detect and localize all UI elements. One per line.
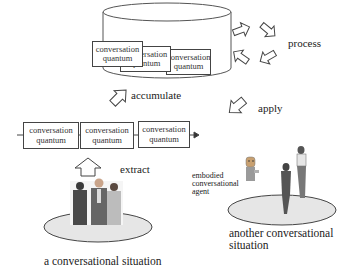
timeline-quantum-1: conversation quantum (23, 122, 79, 149)
people-photo (70, 179, 123, 226)
left-situation-caption: a conversational situation (44, 256, 162, 267)
agent-label-line3: agent (192, 188, 209, 196)
accumulate-label: accumulate (131, 90, 181, 101)
repository-quantum-1: conversation quantum (92, 41, 143, 67)
accumulate-arrow-icon (107, 84, 132, 109)
conversation-quanta-diagram: conversation quantum conversation quantu… (0, 0, 351, 273)
extract-arrow-icon (75, 158, 101, 176)
quantum-text: quantum (24, 136, 78, 146)
quantum-text: quantum (93, 54, 142, 64)
process-label: process (288, 38, 321, 49)
timeline-quantum-2: conversation quantum (80, 122, 134, 149)
right-platform (228, 195, 336, 225)
apply-label: apply (258, 103, 282, 114)
human-figure (297, 146, 306, 198)
apply-arrow-icon (224, 94, 249, 118)
process-cycle-icon (230, 19, 280, 67)
embodied-agent-figure (246, 157, 259, 181)
timeline-quantum-3: conversation quantum (138, 121, 190, 148)
right-situation-caption-line1: another conversational (229, 228, 333, 239)
extract-label: extract (120, 164, 150, 175)
quantum-text: quantum (139, 135, 189, 145)
quantum-text: quantum (81, 136, 133, 146)
right-situation-caption-line2: situation (229, 240, 269, 251)
repository-quantum-3: conversation quantum (166, 49, 211, 75)
quantum-text: quantum (167, 62, 210, 72)
